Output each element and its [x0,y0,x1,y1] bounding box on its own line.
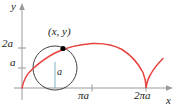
cycloid-figure: y x 2a a πa 2πa (x, y) a [0,0,177,110]
y-axis-label: y [11,1,16,12]
y-tick-label-a: a [10,57,16,68]
cycloid-curve [22,43,163,88]
tracing-point-dot [60,46,65,51]
y-tick-label-2a: 2a [2,38,13,49]
x-tick-label-2pi-a: 2πa [134,90,151,101]
x-tick-label-pi-a: πa [78,90,89,101]
radius-label: a [57,67,62,77]
x-axis-label: x [166,95,171,106]
y-axis-arrow-icon [19,3,25,10]
tracing-point-label: (x, y) [48,26,71,37]
x-axis-arrow-icon [166,85,173,91]
